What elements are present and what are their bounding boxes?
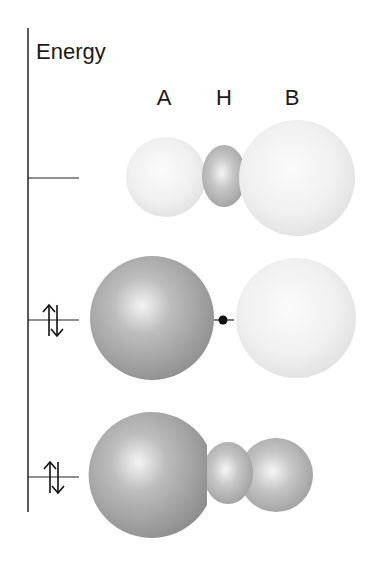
lobe-b-light: [239, 120, 355, 236]
level-1-antibonding: [28, 120, 355, 236]
level-2-nonbonding: [28, 256, 356, 380]
lobe-a-light: [126, 137, 206, 217]
column-label-b: B: [277, 85, 307, 111]
sphere-b-light: [236, 258, 356, 378]
energy-axis-label: Energy: [36, 39, 106, 65]
node-dot: [219, 316, 228, 325]
column-label-a: A: [149, 85, 179, 111]
level-3-bonding: [28, 412, 313, 538]
lobe-a-shaded: [89, 412, 207, 538]
column-label-h: H: [209, 85, 239, 111]
lobe-h-shaded: [203, 442, 253, 504]
energy-diagram: [0, 0, 379, 571]
sphere-a-dark: [90, 256, 214, 380]
